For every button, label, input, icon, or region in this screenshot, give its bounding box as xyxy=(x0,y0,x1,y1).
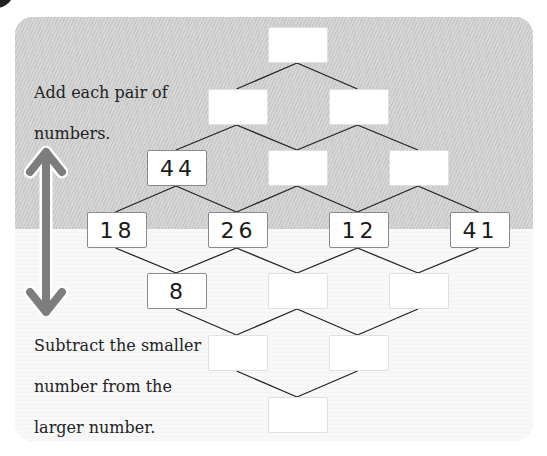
number-box: 12 xyxy=(329,212,389,248)
connector-line xyxy=(358,186,419,212)
connector-line xyxy=(358,248,419,273)
subtract-instruction-line: Subtract the smaller xyxy=(34,325,201,366)
connector-line xyxy=(237,371,298,397)
connector-line xyxy=(297,309,358,335)
connector-line xyxy=(237,186,298,212)
connector-line xyxy=(176,186,237,212)
connector-line xyxy=(297,248,358,273)
answer-box[interactable] xyxy=(389,273,449,309)
answer-box[interactable] xyxy=(389,150,449,186)
connector-line xyxy=(116,186,177,212)
connector-line xyxy=(418,248,479,273)
connector-line xyxy=(358,125,419,150)
connector-line xyxy=(237,309,298,335)
connector-line xyxy=(297,186,358,212)
connector-line xyxy=(297,371,358,397)
answer-box[interactable] xyxy=(268,27,328,63)
connector-line xyxy=(176,248,237,273)
connector-line xyxy=(116,248,177,273)
connector-line xyxy=(358,309,419,335)
number-box: 26 xyxy=(208,212,268,248)
answer-box[interactable] xyxy=(268,273,328,309)
number-box: 41 xyxy=(450,212,510,248)
answer-box[interactable] xyxy=(268,397,328,433)
add-instruction-line: Add each pair of xyxy=(34,72,168,113)
answer-box[interactable] xyxy=(208,335,268,371)
number-box: 44 xyxy=(147,150,207,186)
connector-line xyxy=(237,63,298,89)
double-arrow-icon xyxy=(24,146,68,318)
answer-box[interactable] xyxy=(268,150,328,186)
connector-line xyxy=(297,125,358,150)
number-box: 8 xyxy=(147,273,207,309)
subtract-instruction-line: larger number. xyxy=(34,407,201,448)
subtract-instruction-line: number from the xyxy=(34,366,201,407)
subtract-instruction: Subtract the smaller number from the lar… xyxy=(34,325,201,448)
answer-box[interactable] xyxy=(208,89,268,125)
connector-line xyxy=(237,248,298,273)
answer-box[interactable] xyxy=(329,335,389,371)
add-instruction: Add each pair of numbers. xyxy=(34,72,168,154)
connector-line xyxy=(297,63,358,89)
number-box: 18 xyxy=(87,212,147,248)
add-instruction-line: numbers. xyxy=(34,113,168,154)
connector-line xyxy=(176,125,237,150)
connector-line xyxy=(237,125,298,150)
connector-line xyxy=(418,186,479,212)
answer-box[interactable] xyxy=(329,89,389,125)
